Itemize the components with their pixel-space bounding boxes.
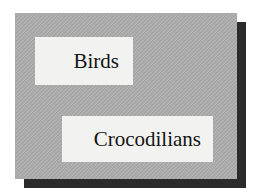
label-box-birds: Birds <box>35 37 133 85</box>
label-box-crocodilians: Crocodilians <box>62 116 213 162</box>
panel-shadow-right <box>237 22 246 188</box>
figure-root: Birds Crocodilians <box>0 0 266 196</box>
diagram-panel: Birds Crocodilians <box>15 13 237 179</box>
label-text-crocodilians: Crocodilians <box>62 129 201 150</box>
panel-shadow-bottom <box>24 179 246 188</box>
label-text-birds: Birds <box>35 51 119 72</box>
